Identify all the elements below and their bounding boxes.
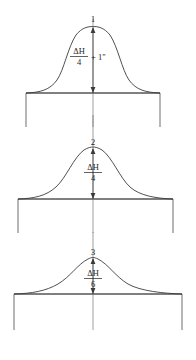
figure-1-label-suffix: + 1" [91, 52, 106, 62]
figure-2-label-numerator: ΔH [87, 162, 99, 172]
figure-2-arrowhead-up [91, 148, 96, 154]
figure-3-label-numerator: ΔH [87, 268, 99, 278]
camber-figure-3: 3 ΔH 6 [14, 232, 182, 330]
figure-1-index: 1 [91, 14, 96, 24]
figure-2-arrowhead-down [91, 193, 96, 199]
figure-3-index: 3 [91, 247, 96, 257]
diagram-canvas: 1 ΔH 4 + 1" 2 ΔH 4 3 Δ [0, 0, 196, 360]
camber-figure-1: 1 ΔH 4 + 1" [26, 14, 160, 127]
figure-1-label-denominator: 4 [77, 57, 82, 67]
figure-2-camber-curve [18, 147, 173, 199]
figure-2-label-denominator: 4 [91, 173, 96, 183]
camber-figure-2: 2 ΔH 4 [18, 115, 173, 233]
figure-3-box [14, 294, 182, 330]
figure-1-arrowhead-up [91, 27, 96, 33]
figure-2-index: 2 [91, 137, 96, 147]
figure-1-label-numerator: ΔH [73, 46, 85, 56]
camber-diagram-sheet: 1 ΔH 4 + 1" 2 ΔH 4 3 Δ [0, 0, 196, 360]
figure-3-label-denominator: 6 [91, 279, 95, 289]
figure-3-arrowhead-up [91, 258, 96, 264]
figure-2-box [18, 199, 173, 233]
figure-1-arrowhead-down [91, 87, 96, 93]
